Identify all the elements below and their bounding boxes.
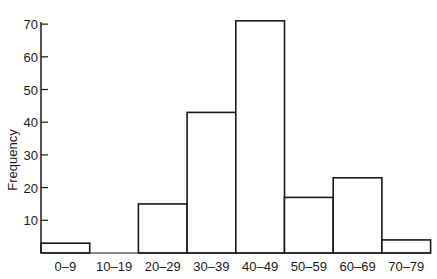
bar-40–49 [236, 21, 285, 253]
x-tick-label: 0–9 [54, 259, 76, 274]
y-axis-label: Frequency [5, 129, 20, 191]
bar-30–39 [187, 112, 236, 253]
y-tick-label: 50 [24, 83, 38, 98]
y-tick-label: 20 [24, 181, 38, 196]
bar-70–79 [382, 240, 431, 253]
y-tick-label: 30 [24, 148, 38, 163]
x-tick-label: 50–59 [291, 259, 327, 274]
bars [41, 21, 431, 253]
y-tick-label: 70 [24, 17, 38, 32]
y-ticks: 10203040506070 [24, 17, 48, 228]
x-tick-label: 10–19 [96, 259, 132, 274]
x-category-labels: 0–910–1920–2930–3940–4950–5960–6970–79 [54, 259, 424, 274]
x-tick-label: 70–79 [388, 259, 424, 274]
x-tick-label: 30–39 [193, 259, 229, 274]
bar-50–59 [285, 197, 334, 253]
x-tick-label: 60–69 [339, 259, 375, 274]
y-tick-label: 40 [24, 115, 38, 130]
y-tick-label: 60 [24, 50, 38, 65]
bar-20–29 [138, 204, 187, 253]
x-tick-label: 20–29 [145, 259, 181, 274]
histogram-chart: 10203040506070 0–910–1920–2930–3940–4950… [0, 0, 437, 279]
bar-0–9 [41, 243, 90, 253]
bar-60–69 [333, 178, 382, 253]
y-tick-label: 10 [24, 213, 38, 228]
x-tick-label: 40–49 [242, 259, 278, 274]
